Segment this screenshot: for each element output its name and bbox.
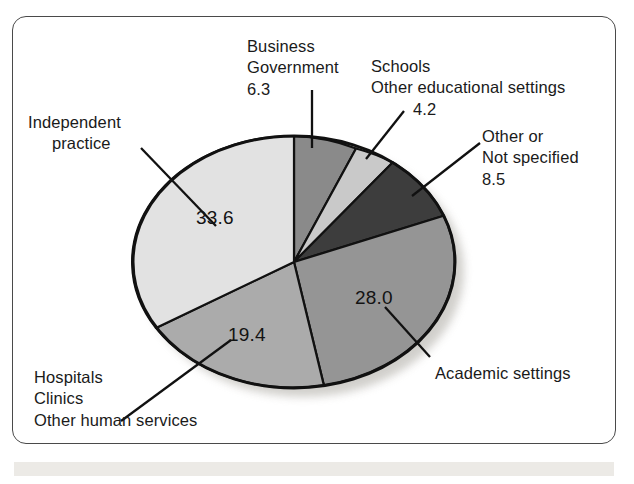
- slice-label-schools-line1: Schools: [371, 56, 565, 77]
- slice-label-business-line1: Business: [247, 36, 339, 57]
- slice-value-hospitals: 19.4: [228, 324, 266, 346]
- slice-value-independent: 33.6: [196, 207, 234, 229]
- slice-label-hospitals-line1: Hospitals: [34, 367, 197, 388]
- slice-label-business: Business Government 6.3: [247, 36, 339, 100]
- slice-label-other-line2: Not specified: [482, 147, 579, 168]
- slice-value-academic: 28.0: [355, 287, 393, 309]
- slice-label-academic: Academic settings: [435, 363, 571, 384]
- slice-label-hospitals-line3: Other human services: [34, 410, 197, 431]
- leader-line-other-not-specified: [412, 143, 480, 196]
- slice-label-schools-value: 4.2: [413, 99, 565, 120]
- slice-label-schools-line2: Other educational settings: [371, 77, 565, 98]
- slice-label-hospitals: Hospitals Clinics Other human services: [34, 367, 197, 431]
- slice-label-independent: Independent practice: [28, 112, 121, 155]
- slice-label-independent-line1: Independent: [28, 112, 121, 133]
- slice-label-independent-line2: practice: [52, 133, 121, 154]
- pie-chart-figure: Business Government 6.3 Schools Other ed…: [0, 0, 634, 484]
- slice-label-other-line1: Other or: [482, 126, 579, 147]
- slice-label-other-value: 8.5: [482, 169, 579, 190]
- slice-label-schools: Schools Other educational settings 4.2: [371, 56, 565, 120]
- slice-label-other-not-specified: Other or Not specified 8.5: [482, 126, 579, 190]
- slice-label-business-value: 6.3: [247, 79, 339, 100]
- slice-label-academic-line1: Academic settings: [435, 363, 571, 384]
- slice-label-hospitals-line2: Clinics: [34, 388, 197, 409]
- slice-label-business-line2: Government: [247, 57, 339, 78]
